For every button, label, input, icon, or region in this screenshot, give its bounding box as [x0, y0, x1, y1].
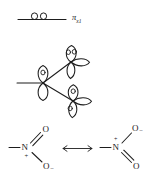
upper-o-p-orbital-icon [66, 46, 89, 79]
right-nitrogen-label: N [113, 143, 120, 152]
lower-o-electron-dot-1 [71, 89, 75, 94]
left-top-double-bond-a [31, 133, 41, 144]
pi-subscript: x1 [76, 18, 81, 24]
left-top-oxygen-label: O [43, 125, 50, 134]
mo-energy-level-group [18, 13, 66, 20]
left-bottom-single-bond [32, 153, 42, 163]
upper-o-electron-dot-1 [66, 50, 70, 55]
center-n-electron-dot [41, 70, 45, 75]
pi-orbital-label: πx1 [72, 13, 81, 24]
left-nitrogen-label: N [22, 143, 29, 152]
lower-o-p-orbital-icon [68, 85, 91, 118]
right-bottom-double-bond-a [122, 153, 132, 163]
figure-linework [0, 0, 149, 180]
right-top-oxygen-charge: – [140, 127, 143, 133]
right-top-single-bond [122, 133, 132, 143]
left-nitrogen-charge: + [25, 153, 29, 160]
right-bottom-oxygen-label: O [133, 162, 140, 171]
right-nitrogen-charge: + [114, 136, 117, 142]
orbital-sketch-group [17, 46, 92, 118]
right-top-oxygen-label: O [132, 124, 139, 133]
electron-1-icon [31, 13, 37, 20]
left-bottom-oxygen-label: O [43, 162, 50, 171]
right-bottom-double-bond-b [124, 150, 134, 160]
electron-2-icon [40, 13, 46, 20]
resonance-arrow-icon [63, 146, 92, 152]
left-bottom-oxygen-charge: – [51, 165, 54, 171]
chemistry-figure: πx1 N + O O – N + O – O [0, 0, 149, 180]
left-top-double-bond-b [33, 135, 43, 146]
